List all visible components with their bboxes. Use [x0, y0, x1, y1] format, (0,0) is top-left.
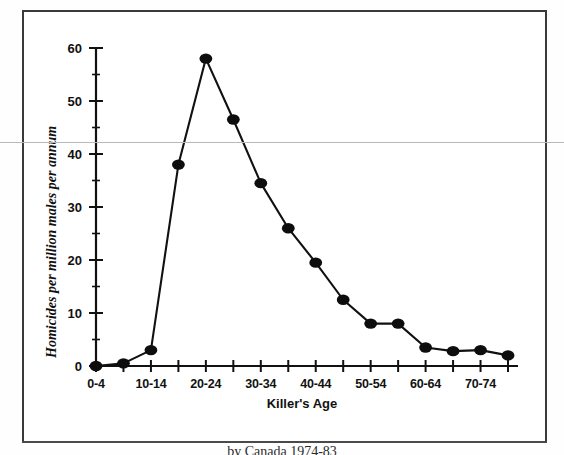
data-point-marker	[90, 361, 103, 371]
chart-plot-area	[0, 0, 564, 455]
data-point-marker	[309, 257, 322, 267]
data-point-marker	[392, 318, 405, 328]
data-point-marker	[419, 342, 432, 352]
scan-artifact-line	[0, 142, 564, 143]
data-line	[96, 59, 508, 366]
figure-root: 01020304050600-410-1420-2430-3440-4450-5…	[0, 0, 564, 455]
data-point-marker	[254, 178, 267, 188]
data-point-marker	[282, 223, 295, 233]
data-point-marker	[474, 345, 487, 355]
data-point-marker	[172, 159, 185, 169]
data-point-marker	[227, 114, 240, 124]
data-point-marker	[145, 345, 158, 355]
data-point-marker	[199, 53, 212, 63]
data-point-marker	[117, 358, 130, 368]
line-chart	[0, 0, 564, 455]
data-point-marker	[502, 350, 515, 360]
data-point-marker	[447, 346, 460, 356]
data-point-marker	[337, 295, 350, 305]
data-point-marker	[364, 318, 377, 328]
